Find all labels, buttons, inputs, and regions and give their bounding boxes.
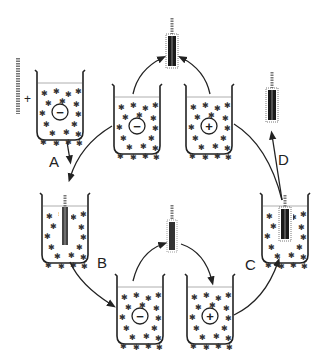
top-coated-rod: [166, 18, 178, 68]
final-coated-rod: [266, 72, 278, 122]
charge-sign: −: [56, 105, 64, 120]
right-beaker-with-rod: [260, 193, 310, 271]
step-label-a: A: [49, 153, 59, 170]
charge-sign: +: [206, 309, 214, 324]
arc-right-top: [234, 124, 282, 200]
bottom-right-beaker: +: [185, 274, 235, 352]
left-beaker-with-rod: [40, 193, 90, 271]
arrow-bottom-up: [133, 244, 163, 281]
charge-sign: +: [205, 119, 213, 134]
bottom-coated-rod: [167, 205, 177, 252]
top-left-beaker: −: [112, 84, 162, 162]
step-label-b: B: [97, 254, 107, 271]
plus-symbol: +: [24, 92, 31, 106]
charge-sign: −: [133, 119, 141, 134]
arrow-up-left: [133, 58, 162, 94]
charge-sign: −: [136, 309, 144, 324]
deposition-cycle-diagram: ✱✱✱✱ ✱✱✱ ✱✱ ✱✱ ✱✱✱ ✱✱✱✱ + −: [0, 0, 323, 356]
start-beaker: −: [35, 70, 85, 148]
step-label-d: D: [278, 151, 289, 168]
top-right-beaker: +: [184, 84, 234, 162]
bottom-left-beaker: −: [115, 274, 165, 352]
step-label-c: C: [245, 256, 256, 273]
